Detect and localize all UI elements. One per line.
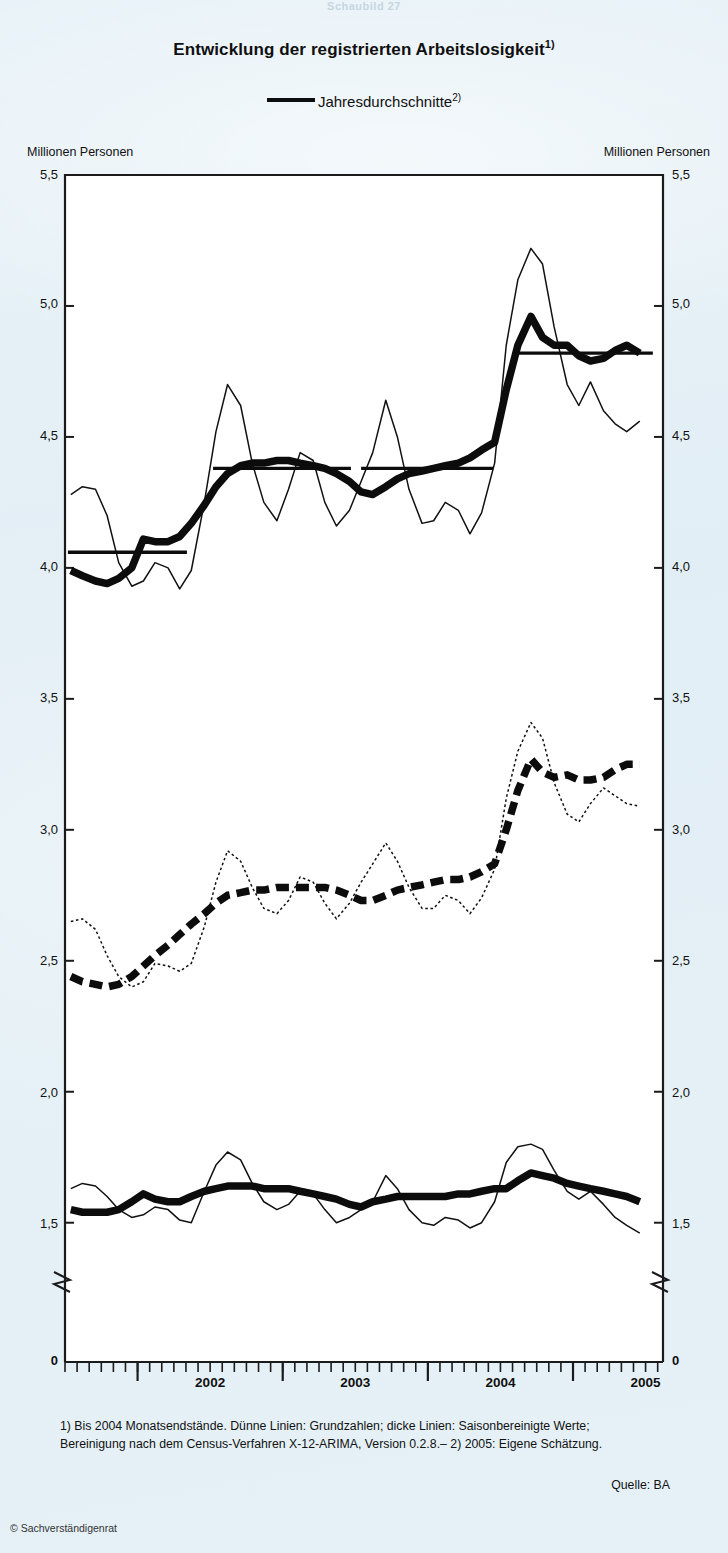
source-note: Quelle: BA xyxy=(611,1478,670,1492)
footnote-line-2: Bereinigung nach dem Census-Verfahren X-… xyxy=(60,1436,660,1454)
chart-plot-area xyxy=(0,0,728,1553)
copyright-note: © Sachverständigenrat xyxy=(10,1522,117,1534)
footnote-block: 1) Bis 2004 Monatsendstände. Dünne Linie… xyxy=(60,1418,660,1454)
footnote-line-1: 1) Bis 2004 Monatsendstände. Dünne Linie… xyxy=(60,1418,660,1436)
